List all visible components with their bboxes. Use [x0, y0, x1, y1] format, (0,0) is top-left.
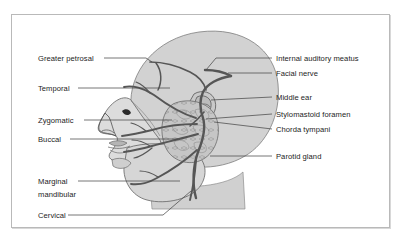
leader-greater-petrosal — [104, 58, 152, 62]
figure-root: Greater petrosal Temporal Zygomatic Bucc… — [0, 0, 404, 245]
label-parotid-gland: Parotid gland — [276, 152, 321, 161]
label-facial-nerve: Facial nerve — [276, 69, 318, 78]
label-internal-auditory-meatus: Internal auditory meatus — [276, 54, 359, 63]
label-stylomastoid-foramen: Stylomastoid foramen — [276, 110, 350, 119]
label-marginal: Marginal — [38, 177, 68, 186]
label-cervical: Cervical — [38, 211, 66, 220]
label-buccal: Buccal — [38, 135, 61, 144]
label-chorda-tympani: Chorda tympani — [276, 125, 330, 134]
label-zygomatic: Zygomatic — [38, 116, 73, 125]
parotid-outline — [162, 101, 219, 163]
label-mandibular: mandibular — [38, 190, 76, 199]
label-greater-petrosal: Greater petrosal — [38, 54, 94, 63]
label-temporal: Temporal — [38, 84, 70, 93]
parotid-gland-shape — [162, 101, 219, 163]
label-middle-ear: Middle ear — [276, 93, 312, 102]
